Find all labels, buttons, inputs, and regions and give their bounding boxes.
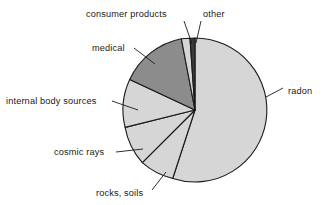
pie-label-rocks-soils: rocks, soils xyxy=(96,188,143,198)
leader-line-radon xyxy=(266,88,283,97)
pie-chart-page: consumer products other medical internal… xyxy=(0,0,329,205)
pie-label-radon: radon xyxy=(288,86,312,96)
pie-label-medical: medical xyxy=(92,43,125,53)
pie-slices xyxy=(123,38,267,182)
leader-line-rocks-soils xyxy=(152,172,166,190)
pie-label-cosmic-rays: cosmic rays xyxy=(54,147,104,157)
pie-label-other: other xyxy=(203,9,225,19)
pie-label-internal-body-sources: internal body sources xyxy=(6,96,97,106)
radiation-sources-pie-chart: consumer products other medical internal… xyxy=(0,0,329,205)
pie-label-consumer-products: consumer products xyxy=(86,9,167,19)
